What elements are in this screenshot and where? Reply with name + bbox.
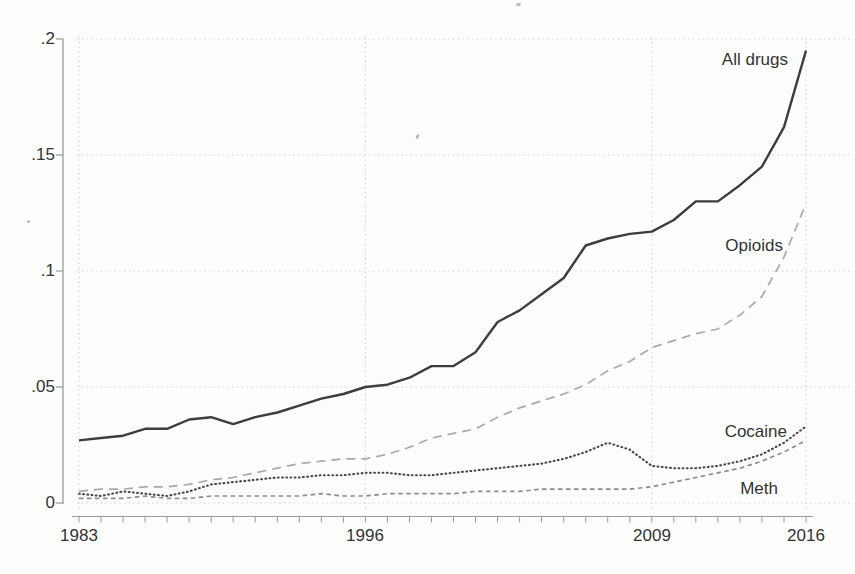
series-label-opioids: Opioids [623,236,783,256]
x-tick-label-1996: 1996 [333,526,397,546]
y-tick-label-0: 0 [0,493,55,513]
x-tick-label-2016: 2016 [774,526,838,546]
x-tick-label-1983: 1983 [47,526,111,546]
line-chart: 0 .05 .1 .15 .2 1983 1996 2009 2016 All … [0,0,855,574]
scan-artifact [516,3,521,6]
scan-artifact [27,220,30,223]
series-label-meth: Meth [618,479,778,499]
y-tick-label-015: .15 [0,145,55,165]
x-tick-label-2009: 2009 [620,526,684,546]
y-tick-label-02: .2 [0,29,55,49]
y-tick-label-01: .1 [0,261,55,281]
y-tick-label-005: .05 [0,377,55,397]
series-label-all-drugs: All drugs [628,50,788,70]
series-label-cocaine: Cocaine [627,422,787,442]
